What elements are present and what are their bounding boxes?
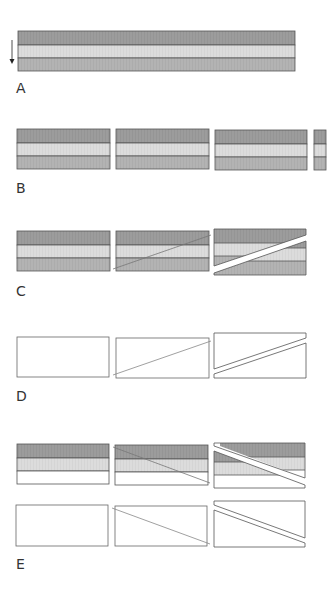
panel-d <box>17 333 306 378</box>
panel-e-empty <box>16 501 305 547</box>
panel-e-layered <box>17 443 305 488</box>
block-e4 <box>16 505 108 546</box>
block-d1 <box>17 337 109 377</box>
panel-label-c: C <box>16 283 26 299</box>
block-b4 <box>314 130 326 170</box>
block-e3-faulted <box>214 443 305 488</box>
panel-label-e: E <box>16 556 25 572</box>
panel-label-b: B <box>16 180 26 196</box>
block-e1 <box>17 444 109 484</box>
block-d3-faulted <box>214 333 306 378</box>
block-b1 <box>17 129 110 169</box>
block-b2 <box>116 129 209 169</box>
panel-b-blocks <box>17 129 326 170</box>
diagram-canvas <box>0 0 335 589</box>
block-e2-cut <box>113 445 210 485</box>
block-c2-cut <box>113 231 211 271</box>
block-c3-faulted <box>214 229 306 275</box>
panel-label-d: D <box>16 388 27 404</box>
block-e6-faulted <box>214 501 305 547</box>
block-b3 <box>215 130 307 170</box>
down-arrow-icon <box>10 40 15 64</box>
panel-a-strata <box>18 31 295 71</box>
block-c1 <box>17 231 110 271</box>
panel-label-a: A <box>16 80 26 96</box>
panel-c <box>17 229 306 275</box>
